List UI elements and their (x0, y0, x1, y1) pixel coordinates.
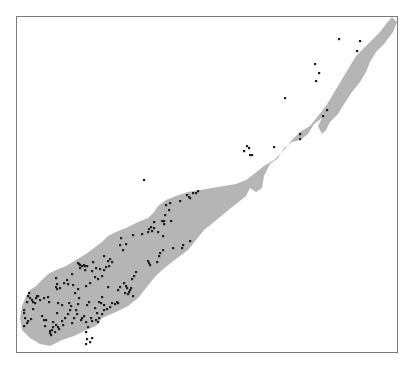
observation-point (189, 197, 191, 199)
observation-point (67, 313, 69, 315)
observation-point (45, 319, 47, 321)
observation-point (117, 302, 119, 304)
observation-point (90, 317, 92, 319)
observation-point (48, 301, 50, 303)
observation-point (109, 258, 111, 260)
observation-point (67, 283, 69, 285)
observation-point (51, 329, 53, 331)
observation-point (103, 255, 105, 257)
observation-point (181, 247, 183, 249)
observation-point (77, 303, 79, 305)
observation-point (119, 286, 121, 288)
observation-point (150, 226, 152, 228)
observation-point (32, 308, 34, 310)
observation-point (122, 249, 124, 251)
observation-point (79, 264, 81, 266)
observation-point (89, 341, 91, 343)
observation-point (151, 230, 153, 232)
observation-point (85, 343, 87, 345)
observation-point (129, 289, 131, 291)
observation-point (91, 320, 93, 322)
map-figure (0, 0, 410, 366)
observation-point (71, 273, 73, 275)
observation-point (55, 286, 57, 288)
observation-point (34, 302, 36, 304)
observation-point (125, 285, 127, 287)
observation-point (47, 296, 49, 298)
observation-point (172, 247, 174, 249)
observation-point (86, 265, 88, 267)
observation-point (52, 321, 54, 323)
observation-point (95, 319, 97, 321)
observation-point (156, 261, 158, 263)
observation-point (195, 192, 197, 194)
observation-point (326, 109, 328, 111)
observation-point (103, 309, 105, 311)
observation-point (31, 299, 33, 301)
observation-point (83, 315, 85, 317)
observation-point (43, 319, 45, 321)
observation-point (111, 261, 113, 263)
observation-point (101, 313, 103, 315)
observation-point (299, 138, 301, 140)
observation-point (107, 286, 109, 288)
observation-point (52, 326, 54, 328)
observation-point (98, 317, 100, 319)
observation-point (315, 80, 317, 82)
observation-point (98, 301, 100, 303)
observation-point (132, 234, 134, 236)
observation-point (108, 265, 110, 267)
observation-point (55, 324, 57, 326)
observation-point (165, 204, 167, 206)
observation-point (78, 297, 80, 299)
observation-point (126, 287, 128, 289)
observation-point (243, 150, 245, 152)
observation-point (32, 301, 34, 303)
observation-point (359, 40, 361, 42)
observation-point (62, 324, 64, 326)
observation-point (322, 115, 324, 117)
observation-point (24, 317, 26, 319)
observation-point (153, 221, 155, 223)
observation-point (105, 266, 107, 268)
observation-point (164, 214, 166, 216)
observation-point (94, 276, 96, 278)
observation-point (71, 322, 73, 324)
observation-point (186, 194, 188, 196)
observation-point (50, 334, 52, 336)
observation-point (23, 309, 25, 311)
observation-point (27, 295, 29, 297)
observation-point (148, 228, 150, 230)
observation-point (147, 231, 149, 233)
observation-point (123, 282, 125, 284)
observation-point (59, 287, 61, 289)
observation-point (170, 220, 172, 222)
observation-point (96, 312, 98, 314)
observation-point (120, 237, 122, 239)
observation-point (37, 295, 39, 297)
observation-point (85, 321, 87, 323)
observation-point (284, 97, 286, 99)
observation-point (87, 326, 89, 328)
observation-point (117, 289, 119, 291)
observation-point (106, 308, 108, 310)
observation-point (131, 278, 133, 280)
observation-point (26, 301, 28, 303)
observation-point (141, 233, 143, 235)
observation-point (70, 305, 72, 307)
observation-point (135, 271, 137, 273)
observation-point (157, 231, 159, 233)
observation-point (69, 309, 71, 311)
observation-point (56, 312, 58, 314)
observation-point (97, 278, 99, 280)
observation-point (251, 154, 253, 156)
observation-point (41, 315, 43, 317)
observation-point (168, 209, 170, 211)
observation-point (27, 320, 29, 322)
observation-point (29, 297, 31, 299)
observation-point (79, 267, 81, 269)
observation-point (111, 302, 113, 304)
observation-point (197, 190, 199, 192)
observation-point (86, 338, 88, 340)
observation-point (149, 264, 151, 266)
